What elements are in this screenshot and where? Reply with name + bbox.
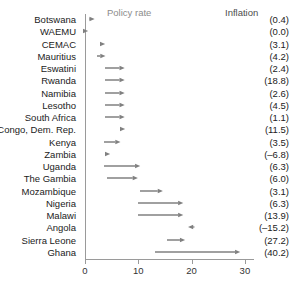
chart-row: Ghana(40.2): [0, 245, 294, 260]
policy-rate-arrow: [147, 245, 248, 260]
x-axis-tick: [138, 260, 139, 264]
x-axis-tick-label: 30: [240, 265, 251, 276]
x-axis-tick: [245, 260, 246, 264]
category-label: Ghana: [47, 247, 76, 258]
arrow-graphic: [147, 245, 248, 260]
x-axis-tick: [85, 260, 86, 264]
x-axis-tick-label: 10: [133, 265, 144, 276]
policy-rate-inflation-chart: Policy rate Inflation Botswana(0.4)WAEMU…: [0, 0, 294, 284]
x-axis-tick: [192, 260, 193, 264]
inflation-value-label: (40.2): [264, 247, 289, 258]
x-axis-tick-label: 20: [186, 265, 197, 276]
x-axis-tick-label: 0: [82, 265, 87, 276]
